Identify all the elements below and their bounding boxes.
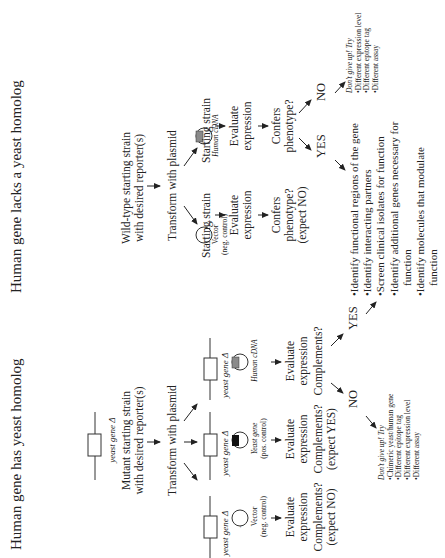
right-col2-confers: Confers phenotype?: [270, 91, 296, 161]
yeast-gene-deletion-icon: [88, 412, 101, 480]
right-col1-confers: Confers phenotype? (expect NO): [270, 180, 310, 250]
right-col1-evaluate: Evaluate expression: [228, 186, 254, 244]
empty-vector-plasmid-icon: [232, 510, 248, 526]
yeast-gene-insert-icon: [232, 435, 239, 446]
right-panel-title: Human gene lacks a yeast homolog: [8, 80, 25, 293]
yes-results-list: •Identify functional regions of the gene…: [348, 122, 440, 296]
gene-diagram-1: [204, 496, 217, 558]
col2-evaluate: Evaluate expression: [284, 410, 310, 468]
right-start-strain: Wild-type starting strain with desired r…: [120, 118, 146, 258]
right-col2-plasmid-label: Human cDNA: [212, 108, 221, 163]
human-cdna-insert-icon: [232, 357, 239, 368]
col2-complements: Complements? (expect YES): [312, 400, 338, 478]
right-col1-plasmid-label: Vector (neg. control): [212, 207, 229, 262]
left-yes-label: YES: [346, 306, 360, 330]
col2-plasmid-label: Yeast gene (pos. control): [251, 411, 268, 466]
left-no-label: NO: [346, 390, 360, 408]
gene-diagram-3: [204, 338, 217, 400]
col1-evaluate: Evaluate expression: [284, 488, 310, 546]
right-no-suggestions: Don't give up! Try •Different expression…: [346, 13, 381, 93]
right-transform-label: Transform with plasmid: [166, 128, 179, 243]
col1-complements: Complements? (expect NO): [312, 478, 338, 556]
flowchart-page: + + + + + Human gene has: [0, 0, 445, 558]
col2-gene-label: yeast gene Δ: [220, 431, 230, 476]
col3-gene-label: yeast gene Δ: [220, 353, 230, 398]
col1-plasmid-label: Vector (neg. control): [251, 489, 268, 544]
left-panel-title: Human gene has yeast homolog: [8, 358, 25, 550]
gene-diagram-2: [204, 412, 217, 480]
top-gene-label: yeast gene Δ: [107, 410, 117, 470]
right-col2-evaluate: Evaluate expression: [228, 97, 254, 155]
col1-gene-label: yeast gene Δ: [220, 511, 230, 556]
right-yes-label: YES: [314, 134, 328, 158]
col3-complements: Complements?: [312, 322, 325, 400]
col3-plasmid-label: Human cDNA: [251, 333, 260, 388]
left-transform-label: Transform with plasmid: [166, 383, 179, 498]
left-start-strain: Mutant starting strain with desired repo…: [120, 373, 146, 508]
col3-evaluate: Evaluate expression: [284, 332, 310, 390]
right-no-label: NO: [314, 83, 328, 101]
left-no-suggestions: Don't give up! Try •Chimeric yeast/human…: [378, 394, 421, 480]
